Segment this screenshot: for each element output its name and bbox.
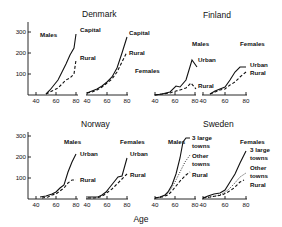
series-label: 3 large [192,134,213,141]
series-label: Urban [130,150,148,157]
line-urban-males [155,60,197,95]
line-other-towns-males [155,155,190,198]
panel-denmark: Denmark 300 200 100 40 60 80 Males Capit… [16,9,150,104]
series-label: Other [250,164,267,171]
x-tick-label: 40 [200,201,207,208]
series-label: towns [250,154,268,161]
panel-title: Denmark [82,9,117,19]
series-label: Rural [80,176,96,183]
series-label: Capital [80,26,101,33]
series-label: Other [192,152,209,159]
x-tick-label: 80 [243,201,250,208]
x-tick-label: 60 [53,201,60,208]
series-label: Rural [250,69,266,76]
x-tick-label: 40 [152,201,159,208]
x-tick-label: 60 [104,97,111,104]
y-tick-label: 300 [16,28,27,35]
group-label-males: Males [64,138,82,145]
x-tick-label: 80 [192,97,199,104]
x-tick-label: 60 [172,97,179,104]
x-tick-label: 60 [222,201,229,208]
x-tick-label: 80 [124,201,131,208]
series-label: Rural [130,171,146,178]
line-3-large-towns-males [155,138,190,198]
series-label: towns [192,160,210,167]
series-label: Urban [198,56,216,63]
x-tick-label: 40 [84,97,91,104]
x-axis-label: Age [133,214,148,224]
x-tick-label: 40 [200,97,207,104]
x-tick-label: 40 [152,97,159,104]
y-tick-label: 200 [16,153,27,160]
y-tick-label: 100 [16,174,27,181]
x-tick-label: 80 [73,97,80,104]
panel-finland: Finland Females 40 60 80 Males Urban Rur… [135,10,268,104]
panel-title: Sweden [203,119,234,129]
group-label-males: Males [40,31,58,38]
series-label: towns [250,172,268,179]
group-label-males: Males [192,40,210,47]
group-label-females-denmark: Females [135,67,160,74]
line-3-large-towns-females [203,151,246,198]
x-tick-label: 60 [104,201,111,208]
x-tick-label: 60 [172,201,179,208]
x-tick-label: 80 [124,97,131,104]
x-tick-label: 60 [53,97,60,104]
y-tick-label: 100 [16,70,27,77]
x-tick-label: 80 [192,201,199,208]
series-label: Rural [192,171,208,178]
line-urban-males [40,154,76,197]
figure-canvas: Denmark 300 200 100 40 60 80 Males Capit… [0,0,282,227]
y-tick-label: 300 [16,132,27,139]
line-rural-males [155,83,196,95]
series-label: towns [192,142,210,149]
series-label: Rural [129,49,145,56]
group-label-females: Females [240,138,265,145]
panel-title: Finland [203,10,231,20]
x-tick-label: 40 [33,97,40,104]
panel-norway: Norway 300 200 100 40 60 80 Males Urban … [16,119,148,208]
x-tick-label: 40 [84,201,91,208]
series-label: Rural [250,181,266,188]
x-tick-label: 40 [33,201,40,208]
series-label: Rural [80,54,96,61]
line-urban-females [210,67,246,94]
panel-title: Norway [81,119,111,129]
series-label: Urban [80,150,98,157]
x-tick-label: 60 [222,97,229,104]
y-tick-label: 200 [16,49,27,56]
series-label: Capital [129,29,150,36]
x-tick-label: 80 [73,201,80,208]
series-label: 3 large [250,146,271,153]
series-label: Rural [198,82,214,89]
panel-sweden: Sweden 40 60 80 Males 3 large towns Othe… [152,119,271,208]
x-tick-label: 80 [243,97,250,104]
group-label-females: Females [120,138,145,145]
group-label-females: Females [240,40,265,47]
series-label: Urban [250,61,268,68]
